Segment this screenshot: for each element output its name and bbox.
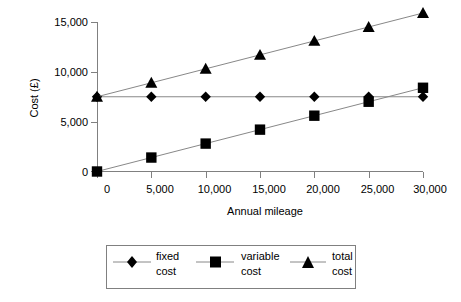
- cost-vs-mileage-line-chart: 15,000 10,000 5,000 0 Cost (£) 0 5,000 1…: [0, 0, 461, 302]
- y-tick-label-15000: 15,000: [54, 16, 88, 28]
- triangle-marker: [145, 77, 157, 88]
- legend-label-variable-line1: variable: [241, 250, 280, 262]
- chart-legend: fixed cost variable cost total cost: [107, 246, 356, 289]
- square-marker: [200, 138, 210, 148]
- square-marker: [146, 152, 156, 162]
- triangle-marker: [417, 7, 429, 18]
- diamond-marker: [146, 92, 156, 102]
- square-marker: [309, 110, 319, 120]
- series-total-cost: [91, 7, 429, 102]
- x-axis: 0 5,000 10,000 15,000 20,000 25,000 30,0…: [97, 172, 447, 218]
- diamond-marker: [418, 92, 428, 102]
- diamond-marker: [200, 92, 210, 102]
- x-tick-label-20000: 20,000: [306, 183, 340, 195]
- square-marker: [363, 97, 373, 107]
- diamond-marker: [309, 92, 319, 102]
- x-tick-label-10000: 10,000: [198, 183, 232, 195]
- y-tick-label-5000: 5,000: [60, 116, 88, 128]
- legend-label-fixed-line2: cost: [156, 265, 176, 277]
- legend-label-variable-line2: cost: [241, 265, 261, 277]
- diamond-marker: [255, 92, 265, 102]
- square-marker: [255, 124, 265, 134]
- y-tick-label-0: 0: [82, 166, 88, 178]
- square-marker: [210, 257, 221, 268]
- triangle-marker: [254, 49, 266, 60]
- square-marker: [92, 166, 102, 176]
- triangle-marker: [363, 21, 375, 32]
- y-axis: 15,000 10,000 5,000 0 Cost (£): [28, 16, 97, 178]
- x-tick-label-25000: 25,000: [361, 183, 395, 195]
- y-axis-title: Cost (£): [28, 78, 40, 117]
- triangle-marker: [308, 35, 320, 46]
- y-tick-label-10000: 10,000: [54, 66, 88, 78]
- legend-box: [107, 246, 356, 289]
- legend-label-total-line1: total: [332, 250, 353, 262]
- chart-figure: 15,000 10,000 5,000 0 Cost (£) 0 5,000 1…: [0, 0, 461, 302]
- x-tick-label-15000: 15,000: [252, 183, 286, 195]
- series-fixed-cost: [92, 92, 428, 102]
- x-tick-label-5000: 5,000: [146, 183, 174, 195]
- square-marker: [418, 83, 428, 93]
- x-tick-label-30000: 30,000: [413, 183, 447, 195]
- series-layer: [91, 7, 429, 177]
- legend-label-total-line2: cost: [332, 265, 352, 277]
- x-axis-title: Annual mileage: [227, 205, 303, 217]
- x-tick-label-0: 0: [104, 183, 110, 195]
- triangle-marker: [200, 63, 212, 74]
- legend-label-fixed-line1: fixed: [156, 250, 179, 262]
